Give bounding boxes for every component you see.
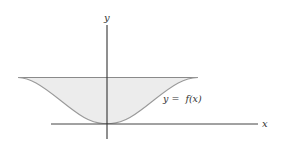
- graph: y x y = f(x): [0, 0, 286, 146]
- curve-label: y = f(x): [162, 93, 202, 104]
- y-axis-label: y: [103, 12, 110, 23]
- x-axis-label: x: [262, 118, 268, 129]
